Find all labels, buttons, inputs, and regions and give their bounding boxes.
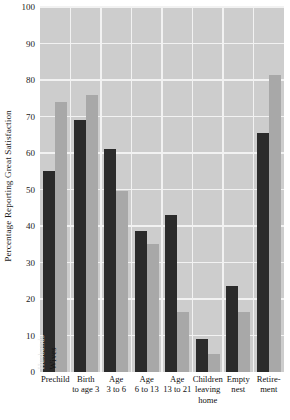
bar-wives xyxy=(147,244,159,372)
x-axis-tick-label: Retire-ment xyxy=(248,374,290,395)
bar-group xyxy=(193,7,224,372)
bar-wives xyxy=(269,75,281,372)
bar-chart: Percentage Reporting Great Satisfaction … xyxy=(0,0,289,420)
y-axis-title-text: Percentage Reporting Great Satisfaction xyxy=(3,110,13,262)
y-axis-tick-label: 40 xyxy=(26,222,35,231)
series-label-wives: Wives xyxy=(49,347,57,369)
y-axis-tick-label: 70 xyxy=(26,112,35,121)
y-axis-tick-label: 10 xyxy=(26,331,35,340)
y-axis-tick-label: 50 xyxy=(26,185,35,194)
bar-husbands xyxy=(226,286,238,372)
y-axis-tick-label: 90 xyxy=(26,39,35,48)
bar-husbands xyxy=(257,133,269,372)
bar-wives xyxy=(116,191,128,372)
bar-group xyxy=(101,7,132,372)
plot-area: HusbandsWives xyxy=(40,7,284,372)
x-axis-tick-label-line: home xyxy=(187,395,230,405)
bar-wives xyxy=(177,312,189,372)
y-axis-tick-label: 30 xyxy=(26,258,35,267)
series-label-husbands: Husbands xyxy=(37,334,45,369)
bar-group xyxy=(162,7,193,372)
x-axis-tick-label-line: Retire- xyxy=(248,374,290,384)
bar-group xyxy=(254,7,285,372)
bar-husbands xyxy=(74,120,86,372)
y-axis-tick-label: 20 xyxy=(26,295,35,304)
x-axis-tick-label-line: ment xyxy=(248,384,290,394)
y-axis-tick-label: 80 xyxy=(26,76,35,85)
y-axis-tick-label: 60 xyxy=(26,149,35,158)
bar-wives xyxy=(238,312,250,372)
y-axis-tick-label: 100 xyxy=(22,3,36,12)
bar-husbands xyxy=(165,215,177,372)
bar-wives: Wives xyxy=(55,102,67,372)
bar-husbands xyxy=(104,149,116,372)
bar-group xyxy=(132,7,163,372)
bar-husbands xyxy=(135,231,147,372)
bar-husbands: Husbands xyxy=(43,171,55,372)
bar-group xyxy=(223,7,254,372)
bar-group xyxy=(71,7,102,372)
bar-wives xyxy=(86,95,98,372)
bar-group: HusbandsWives xyxy=(40,7,71,372)
x-axis-tick-labels: PrechildBirthto age 3Age3 to 6Age6 to 13… xyxy=(40,374,284,420)
bar-husbands xyxy=(196,339,208,372)
y-axis-tick-labels: 0102030405060708090100 xyxy=(14,0,38,372)
bar-wives xyxy=(208,354,220,372)
